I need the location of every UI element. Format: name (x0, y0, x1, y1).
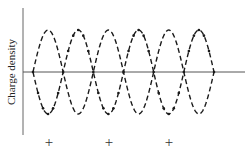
plot-area (0, 0, 252, 157)
charge-density-figure: Charge density + + + (0, 0, 252, 157)
positive-charge-sign: + (102, 134, 116, 150)
y-axis-label: Charge density (5, 39, 17, 105)
positive-charge-sign: + (42, 134, 56, 150)
positive-charge-sign: + (162, 134, 176, 150)
